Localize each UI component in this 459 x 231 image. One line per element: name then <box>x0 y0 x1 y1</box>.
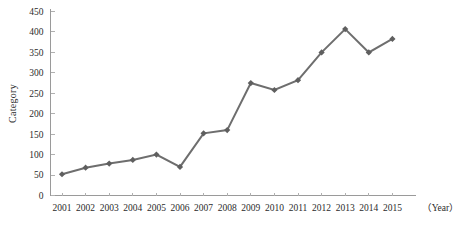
y-axis-tick-label: 400 <box>29 27 44 37</box>
x-axis-tick-label: 2003 <box>100 203 119 213</box>
x-axis-unit-label: （Year） <box>422 202 459 213</box>
y-axis-tick-label: 300 <box>29 68 44 78</box>
x-axis-tick-label: 2014 <box>359 203 378 213</box>
data-point-marker <box>83 165 89 171</box>
x-axis-tick-label: 2004 <box>123 203 142 213</box>
data-point-marker <box>130 157 136 163</box>
line-chart-figure: 050100150200250300350400450Category20012… <box>0 0 459 231</box>
x-axis-tick-label: 2015 <box>383 203 402 213</box>
y-axis-tick-label: 0 <box>39 191 44 201</box>
chart-plot-area: 050100150200250300350400450Category20012… <box>0 0 459 231</box>
x-axis-tick-label: 2002 <box>76 203 95 213</box>
y-axis-tick-label: 150 <box>29 130 44 140</box>
data-point-marker <box>59 171 65 177</box>
x-axis-tick-label: 2001 <box>53 203 72 213</box>
x-axis-tick-label: 2012 <box>312 203 331 213</box>
data-point-marker <box>106 161 112 167</box>
y-axis-tick-label: 50 <box>34 170 44 180</box>
y-axis-tick-label: 200 <box>29 109 44 119</box>
x-axis-tick-label: 2011 <box>289 203 308 213</box>
y-axis-tick-label: 250 <box>29 89 44 99</box>
y-axis-tick-label: 100 <box>29 150 44 160</box>
series-line <box>62 29 392 174</box>
x-axis-tick-label: 2008 <box>218 203 237 213</box>
x-axis-tick-label: 2005 <box>147 203 166 213</box>
x-axis-tick-label: 2007 <box>194 203 213 213</box>
x-axis-tick-label: 2006 <box>171 203 190 213</box>
y-axis-tick-label: 350 <box>29 48 44 58</box>
data-point-marker <box>271 87 277 93</box>
x-axis-tick-label: 2013 <box>336 203 355 213</box>
y-axis-tick-label: 450 <box>29 7 44 17</box>
x-axis-tick-label: 2010 <box>265 203 284 213</box>
x-axis-tick-label: 2009 <box>241 203 260 213</box>
y-axis-title: Category <box>7 84 18 123</box>
